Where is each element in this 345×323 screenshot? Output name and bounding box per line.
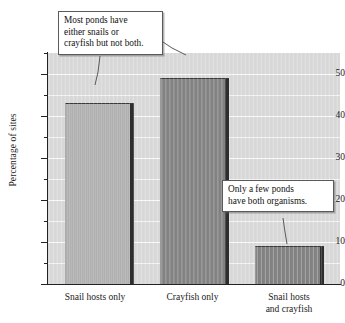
y-tick-35 <box>44 137 48 138</box>
x-label-line-2: and crayfish <box>238 303 340 315</box>
y-tick-30 <box>41 158 48 159</box>
y-tick-label-10: 10 <box>307 236 345 246</box>
y-tick-15 <box>44 221 48 222</box>
y-tick-55 <box>44 53 48 54</box>
callout-few-ponds[interactable]: Only a few ponds have both organisms. <box>222 180 334 212</box>
y-tick-label-50: 50 <box>307 68 345 78</box>
y-tick-label-0: 0 <box>307 278 345 288</box>
gridline-50 <box>48 74 340 75</box>
y-tick-45 <box>44 95 48 96</box>
y-tick-label-30: 30 <box>307 152 345 162</box>
y-tick-50 <box>41 74 48 75</box>
x-label-snail-hosts-only: Snail hosts only <box>40 291 150 303</box>
x-label-line: Crayfish only <box>140 291 245 303</box>
callout-line-1: Only a few ponds <box>228 184 328 196</box>
bar-face <box>161 79 229 284</box>
y-tick-0 <box>41 284 48 285</box>
callout-most-ponds[interactable]: Most ponds have either snails or crayfis… <box>58 11 163 55</box>
bar-snail-hosts-only[interactable] <box>65 103 134 284</box>
bar-face <box>66 104 134 284</box>
y-tick-25 <box>44 179 48 180</box>
y-tick-40 <box>41 116 48 117</box>
callout-line-2: have both organisms. <box>228 196 328 208</box>
y-tick-label-40: 40 <box>307 110 345 120</box>
y-axis-title: Percentage of sites <box>8 90 18 210</box>
bar-crayfish-only[interactable] <box>160 78 229 284</box>
x-axis-line <box>47 284 341 285</box>
plot-area <box>48 53 340 284</box>
bar-chart: Percentage of sites <box>0 0 345 323</box>
y-tick-5 <box>44 263 48 264</box>
callout-line-3: crayfish but not both. <box>64 38 157 50</box>
x-label-crayfish-only: Crayfish only <box>140 291 245 303</box>
x-label-snail-hosts-and-crayfish: Snail hosts and crayfish <box>238 291 340 315</box>
callout-line-1: Most ponds have <box>64 15 157 27</box>
y-tick-10 <box>41 242 48 243</box>
x-label-line-1: Snail hosts <box>238 291 340 303</box>
x-label-line: Snail hosts only <box>40 291 150 303</box>
bar-right-edge <box>130 104 134 284</box>
y-axis-line <box>47 52 48 285</box>
y-tick-20 <box>41 200 48 201</box>
callout-line-2: either snails or <box>64 27 157 39</box>
